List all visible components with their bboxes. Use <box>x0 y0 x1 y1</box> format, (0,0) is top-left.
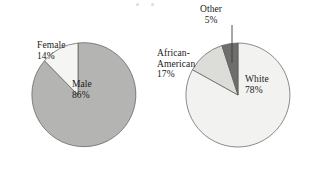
pie-label-female-percent: 14% <box>37 51 66 62</box>
pie-chart-gender: Female 14% Male 86% <box>0 0 155 169</box>
pie-label-african-american-name-line1: African- <box>157 48 190 58</box>
pie-label-male: Male 86% <box>72 79 92 100</box>
pie-label-white: White 78% <box>245 74 269 95</box>
scan-speck <box>151 3 154 6</box>
pie-label-white-percent: 78% <box>245 85 269 96</box>
pie-chart-race: Other 5% African- American 17% White 78% <box>155 0 310 169</box>
scan-speck <box>136 3 139 6</box>
pie-label-other-percent: 5% <box>200 15 222 26</box>
pie-label-female: Female 14% <box>37 40 66 61</box>
pie-label-african-american-name-line2: American <box>157 59 195 70</box>
pie-label-african-american: African- American 17% <box>157 48 195 80</box>
pie-label-white-name: White <box>245 74 269 84</box>
pie-chart-race-svg <box>155 0 310 169</box>
figure-two-pie-charts: Female 14% Male 86% Other 5% African- Am… <box>0 0 310 169</box>
pie-label-other-name: Other <box>200 4 222 14</box>
pie-label-female-name: Female <box>37 40 66 50</box>
pie-label-male-name: Male <box>72 79 92 89</box>
pie-label-african-american-percent: 17% <box>157 69 195 80</box>
pie-label-male-percent: 86% <box>72 90 92 101</box>
pie-label-other: Other 5% <box>200 4 222 25</box>
